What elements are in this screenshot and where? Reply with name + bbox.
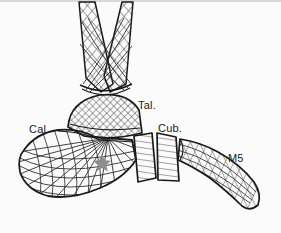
figure-canvas: Cal. Tal. Cub. M5 (0, 0, 281, 233)
bone-metatarsal-5 (172, 132, 268, 214)
label-talus: Tal. (138, 99, 156, 111)
bone-calcaneus (18, 129, 140, 202)
sinus-tarsi-star (93, 154, 112, 172)
label-calcaneus: Cal. (29, 123, 49, 135)
label-metatarsal-5: M5 (228, 152, 244, 164)
label-cuboid: Cub. (158, 122, 182, 134)
foot-trabecular-diagram (0, 0, 281, 233)
